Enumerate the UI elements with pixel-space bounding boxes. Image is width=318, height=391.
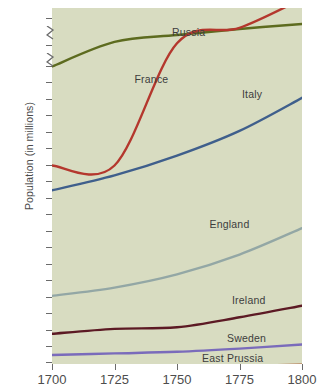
y-tick-mark <box>46 330 52 331</box>
y-tick-mark <box>46 346 52 347</box>
series-label-england: England <box>210 218 250 230</box>
x-tick-mark <box>52 364 53 370</box>
y-tick-mark <box>46 132 52 133</box>
x-tick-mark <box>302 364 303 370</box>
x-tick-mark <box>115 364 116 370</box>
series-label-russia: Russia <box>172 26 205 38</box>
y-tick-mark <box>46 297 52 298</box>
series-lines-svg <box>52 8 302 364</box>
y-tick-mark <box>46 181 52 182</box>
series-line-italy <box>52 98 302 190</box>
y-tick-mark <box>46 313 52 314</box>
series-line-ireland <box>52 306 302 334</box>
x-tick-label: 1775 <box>214 372 266 387</box>
plot-area <box>52 8 302 364</box>
y-tick-mark <box>46 214 52 215</box>
x-tick-mark <box>240 364 241 370</box>
x-tick-label: 1700 <box>26 372 78 387</box>
series-label-ireland: Ireland <box>232 294 266 306</box>
x-tick-label: 1800 <box>276 372 318 387</box>
y-tick-mark <box>46 247 52 248</box>
x-tick-label: 1750 <box>151 372 203 387</box>
series-label-italy: Italy <box>242 88 262 100</box>
series-label-sweden: Sweden <box>227 332 266 344</box>
y-axis-title: Population (in millions) <box>23 81 35 231</box>
series-line-england <box>52 228 302 296</box>
y-tick-mark <box>46 99 52 100</box>
chart-root: Population (in millions) 403020191817161… <box>0 0 318 391</box>
series-label-france: France <box>135 73 169 85</box>
y-tick-mark <box>46 115 52 116</box>
y-tick-mark <box>46 18 52 19</box>
y-tick-mark <box>46 198 52 199</box>
series-label-east-prussia: East Prussia <box>202 352 263 364</box>
y-tick-mark <box>46 148 52 149</box>
y-tick-mark <box>46 45 52 46</box>
y-axis-break-lower <box>46 53 55 67</box>
y-tick-mark <box>46 165 52 166</box>
y-tick-mark <box>46 264 52 265</box>
y-axis-break-upper <box>46 26 55 40</box>
series-line-sweden <box>52 345 302 355</box>
x-tick-mark <box>177 364 178 370</box>
x-tick-label: 1725 <box>89 372 141 387</box>
y-tick-mark <box>46 82 52 83</box>
y-tick-mark <box>46 231 52 232</box>
y-tick-mark <box>46 280 52 281</box>
